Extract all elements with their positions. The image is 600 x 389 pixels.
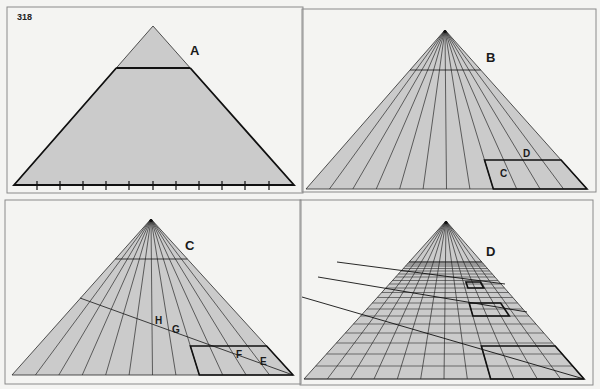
- vanishing-point: [149, 219, 152, 222]
- panel-d-perspective-grid: D: [300, 200, 593, 385]
- point-label: C: [500, 168, 507, 179]
- point-label: E: [260, 356, 267, 367]
- vanishing-point: [443, 30, 446, 33]
- point-label: F: [236, 349, 242, 360]
- panel-label: A: [190, 43, 200, 58]
- panel-label: B: [486, 50, 495, 65]
- panel-b-converging-rays: BDC: [302, 9, 596, 192]
- ground-plane-triangle: [14, 26, 294, 185]
- panel-c-diagonal-measuring-line: CHGFE: [5, 200, 301, 384]
- panel-a-single-vanishing-point-triangle: A: [7, 7, 303, 193]
- perspective-diagram: A BDC CHGFE D: [0, 0, 600, 389]
- point-label: D: [523, 148, 530, 159]
- panel-label: C: [185, 238, 195, 253]
- panel-label: D: [486, 244, 495, 259]
- point-label: H: [155, 315, 162, 326]
- vanishing-point: [444, 221, 447, 224]
- point-label: G: [172, 324, 180, 335]
